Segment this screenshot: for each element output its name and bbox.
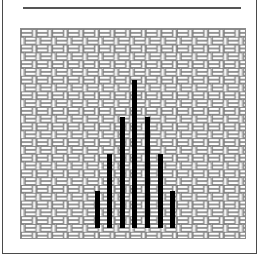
bar-4 [132,80,137,228]
bar-2 [107,154,112,228]
bar-1 [95,191,100,228]
plot-panel [20,28,246,239]
figure-frame [2,0,257,254]
bar-7 [170,191,175,228]
bar-6 [158,154,163,228]
bars-layer [21,29,245,238]
top-horizontal-rule [23,7,241,9]
bar-5 [145,117,150,228]
bar-3 [120,117,125,228]
